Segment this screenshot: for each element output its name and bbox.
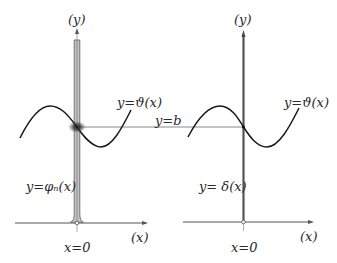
right-theta-label: y=ϑ(x): [284, 96, 329, 109]
left-phi-n-label: y=φₙ(x): [26, 180, 76, 193]
b-level-label: y=b: [155, 114, 182, 127]
right-origin-marker: [242, 220, 246, 224]
left-x-axis-label: (x): [131, 231, 148, 244]
right-y-axis-arrow-icon: [242, 30, 246, 37]
right-delta-label: y= δ(x): [199, 180, 247, 193]
left-theta-label: y=ϑ(x): [117, 96, 162, 109]
left-y-axis-arrow-icon: [75, 28, 79, 34]
left-panel: [15, 28, 243, 232]
sharp-intersection: [242, 125, 245, 128]
right-panel: [183, 30, 314, 231]
diagram-canvas: [0, 0, 337, 263]
left-y-axis-label: (y): [68, 13, 86, 26]
right-origin-label: x=0: [231, 241, 258, 254]
blurred-intersection: [68, 121, 86, 133]
left-origin-label: x=0: [64, 241, 91, 254]
right-x-axis-label: (x): [300, 230, 317, 243]
left-origin-marker: [75, 221, 79, 225]
right-y-axis-label: (y): [234, 13, 252, 26]
right-x-axis-arrow-icon: [308, 220, 314, 224]
left-x-axis-arrow-icon: [142, 221, 148, 225]
